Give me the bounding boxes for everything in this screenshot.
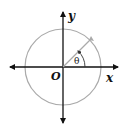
origin-label: O [51, 70, 61, 83]
y-axis-label: y [67, 9, 76, 23]
unit-circle-diagram: y x O θ [0, 0, 124, 134]
theta-label: θ [74, 56, 79, 66]
x-axis-label: x [105, 71, 114, 85]
